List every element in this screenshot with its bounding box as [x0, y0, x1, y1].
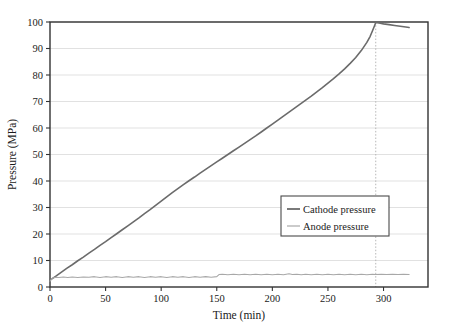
pressure-vs-time-line-chart: 0501001502002503000102030405060708090100…	[0, 0, 450, 332]
x-tick-label: 50	[100, 293, 111, 304]
chart-figure: 0501001502002503000102030405060708090100…	[0, 0, 450, 332]
legend-label-0: Cathode pressure	[303, 204, 376, 215]
x-tick-label: 250	[320, 293, 336, 304]
chart-background	[0, 0, 450, 332]
y-tick-label: 70	[33, 96, 44, 107]
x-tick-label: 200	[264, 293, 280, 304]
x-tick-label: 100	[153, 293, 169, 304]
x-tick-label: 150	[209, 293, 225, 304]
y-tick-label: 0	[38, 282, 43, 293]
y-tick-label: 10	[33, 255, 44, 266]
y-axis-title: Pressure (MPa)	[6, 119, 19, 190]
y-tick-label: 20	[33, 229, 44, 240]
y-tick-label: 60	[33, 123, 44, 134]
y-tick-label: 30	[33, 202, 44, 213]
x-tick-label: 300	[376, 293, 392, 304]
chart-legend[interactable]: Cathode pressureAnode pressure	[281, 196, 389, 236]
y-tick-label: 40	[33, 176, 44, 187]
y-tick-label: 80	[33, 70, 44, 81]
x-tick-label: 0	[47, 293, 52, 304]
x-axis-title: Time (min)	[213, 309, 265, 322]
y-tick-label: 50	[33, 149, 44, 160]
legend-label-1: Anode pressure	[303, 221, 369, 232]
y-tick-label: 100	[27, 17, 43, 28]
y-tick-label: 90	[33, 43, 44, 54]
